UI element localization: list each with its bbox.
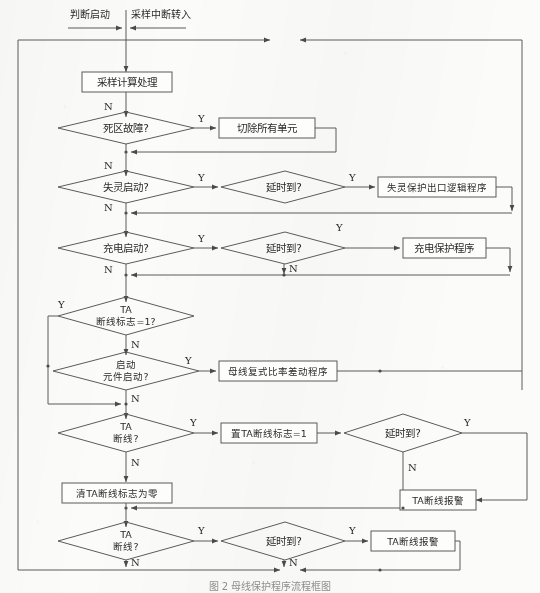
edge-label-n18-yes: Y — [197, 525, 205, 536]
node-delay-reached-2[interactable]: 延时到? — [221, 232, 345, 264]
node-sampling-process[interactable]: 采样计算处理 — [82, 72, 172, 92]
node-label: 采样计算处理 — [97, 76, 158, 88]
edge-label-n10-no: N — [131, 339, 140, 350]
node-label: 置TA断线标志=1 — [231, 428, 307, 439]
junction-dot — [124, 402, 127, 405]
label-sample-interrupt: 采样中断转入 — [131, 8, 191, 20]
node-delay-reached-1[interactable]: 延时到? — [221, 171, 345, 203]
edge-label-n11-no: N — [131, 393, 140, 404]
node-label: 死区故障? — [103, 122, 149, 134]
flowchart-canvas: 判断启动 采样中断转入 采样计算处理 N 死区故障? Y 切除所有单元 — [0, 0, 540, 593]
edge-label-n5-yes: Y — [348, 172, 356, 183]
junction-dot-bottom — [378, 568, 381, 571]
node-label: 充电保护程序 — [414, 242, 474, 254]
label-judge-start: 判断启动 — [70, 8, 110, 20]
edge-label-n7-no: N — [104, 264, 113, 275]
edge-label-n7-yes: Y — [197, 233, 205, 244]
node-label: 切除所有单元 — [237, 122, 298, 134]
node-ta-disconnect-2[interactable]: TA 断线? — [58, 522, 194, 560]
node-label-line2: 元件启动? — [103, 371, 148, 382]
node-label: 延时到? — [266, 181, 302, 193]
node-label: 清TA断线标志为零 — [76, 488, 158, 499]
edge-n20-return — [455, 541, 460, 570]
node-label: 失灵保护出口逻辑程序 — [387, 182, 487, 193]
edge-label-n15-yes: Y — [463, 417, 471, 428]
node-ta-break-flag-is-1[interactable]: TA 断线标志=1? — [58, 297, 194, 335]
edge-label-n4-no: N — [104, 202, 113, 213]
node-label: TA断线报警 — [386, 536, 439, 547]
node-bus-compound-ratio-differential[interactable]: 母线复式比率差动程序 — [219, 361, 337, 381]
node-label: 充电启动? — [103, 242, 149, 254]
node-ta-break-alarm-1[interactable]: TA断线报警 — [400, 490, 476, 510]
node-delay-reached-3[interactable]: 延时到? — [344, 414, 462, 452]
return-bus-row3 — [124, 211, 512, 214]
edge-label-n19-no: N — [289, 557, 298, 568]
edge-n10-yes-loop — [46, 316, 121, 404]
node-label-line1: TA — [119, 304, 132, 315]
node-failure-protection-output-logic[interactable]: 失灵保护出口逻辑程序 — [378, 177, 496, 197]
edge-label-n2-yes: Y — [197, 113, 205, 124]
node-ta-disconnect-1[interactable]: TA 断线? — [58, 414, 194, 452]
node-label: 母线复式比率差动程序 — [228, 366, 328, 377]
edge-label-n2-no: N — [104, 160, 113, 171]
node-label-line1: TA — [119, 529, 132, 540]
node-label: 延时到? — [266, 535, 302, 547]
node-label-line1: 启动 — [116, 359, 136, 370]
node-label: TA断线报警 — [411, 495, 464, 506]
node-clear-ta-break-flag[interactable]: 清TA断线标志为零 — [62, 483, 172, 503]
edge-label-n11-yes: Y — [184, 355, 192, 366]
node-label: 失灵启动? — [103, 181, 149, 193]
edge-label-n13-yes: Y — [189, 417, 197, 428]
node-label: 延时到? — [385, 427, 421, 439]
edge-label-n19-yes: Y — [348, 525, 356, 536]
node-start-element-started[interactable]: 启动 元件启动? — [53, 352, 199, 390]
return-bus-row8 — [124, 503, 404, 527]
return-bus-row4 — [124, 273, 510, 276]
node-trip-all-units[interactable]: 切除所有单元 — [219, 118, 315, 138]
edge-n12-return — [337, 369, 522, 372]
edge-label-n10-yes: Y — [57, 299, 65, 310]
node-label-line2: 断线标志=1? — [96, 316, 155, 327]
edge-label-n13-no: N — [131, 457, 140, 468]
edge-label-n1-no: N — [104, 101, 113, 112]
node-charge-protection-program[interactable]: 充电保护程序 — [403, 238, 486, 258]
edge-label-n8-yes: Y — [335, 222, 343, 233]
node-label-line2: 断线? — [113, 433, 138, 444]
edge-label-n18-no: N — [131, 557, 140, 568]
node-label-line2: 断线? — [113, 541, 138, 552]
edge-n9-return — [486, 248, 510, 272]
figure-caption: 图 2 母线保护程序流程框图 — [209, 580, 332, 592]
node-label: 延时到? — [266, 242, 302, 254]
node-ta-break-alarm-2[interactable]: TA断线报警 — [371, 531, 455, 551]
node-set-ta-break-flag[interactable]: 置TA断线标志=1 — [221, 423, 317, 443]
node-label-line1: TA — [119, 421, 132, 432]
edge-n6-return — [496, 187, 512, 211]
edge-label-n15-no: N — [408, 462, 417, 473]
edge-label-n8-no: N — [289, 263, 298, 274]
edge-label-n4-yes: Y — [197, 172, 205, 183]
node-delay-reached-4[interactable]: 延时到? — [221, 522, 345, 560]
